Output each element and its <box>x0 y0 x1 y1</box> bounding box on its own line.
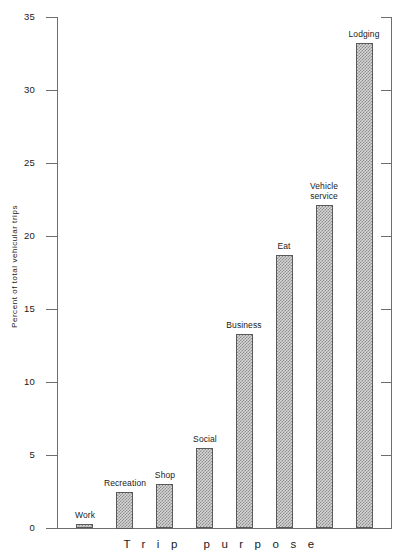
y-tick-left <box>46 163 57 164</box>
bar-rect <box>76 524 93 528</box>
bar-rect <box>196 448 213 528</box>
bar-social[interactable] <box>196 448 213 528</box>
bar-recreation[interactable] <box>116 492 133 529</box>
y-tick-right <box>381 90 392 91</box>
y-tick-label: 0 <box>30 523 35 533</box>
y-tick-right <box>381 382 392 383</box>
bar-label: Vehicle service <box>285 181 363 201</box>
bar-rect <box>156 484 173 528</box>
y-axis-title: Percent of total vehicular trips <box>10 167 19 367</box>
bar-rect <box>276 255 293 528</box>
bar-label: Eat <box>245 241 323 251</box>
y-tick-left <box>46 236 57 237</box>
y-tick-label: 10 <box>24 377 35 387</box>
y-tick-label: 5 <box>30 450 35 460</box>
y-tick-left <box>46 528 57 529</box>
bar-label: Shop <box>126 470 204 480</box>
bar-label: Social <box>166 434 244 444</box>
y-axis-right-line <box>391 17 392 529</box>
bar-business[interactable] <box>236 334 253 528</box>
bar-label: Work <box>46 510 124 520</box>
y-tick-label: 35 <box>24 12 35 22</box>
y-tick-label: 25 <box>24 158 35 168</box>
bar-work[interactable] <box>76 524 93 528</box>
y-tick-right <box>381 455 392 456</box>
y-tick-label: 15 <box>24 304 35 314</box>
bar-rect <box>236 334 253 528</box>
y-tick-label: 20 <box>24 231 35 241</box>
y-tick-left <box>46 309 57 310</box>
y-tick-left <box>46 17 57 18</box>
y-tick-right <box>381 528 392 529</box>
y-tick-label: 30 <box>24 85 35 95</box>
x-axis-baseline <box>57 528 392 529</box>
bar-lodging[interactable] <box>356 43 373 528</box>
y-tick-right <box>381 309 392 310</box>
bar-rect <box>356 43 373 528</box>
bar-rect <box>116 492 133 529</box>
y-axis-left-line <box>57 17 58 529</box>
y-tick-left <box>46 382 57 383</box>
y-tick-right <box>381 236 392 237</box>
bar-chart: 35302520151050 Percent of total vehicula… <box>0 0 418 559</box>
bar-label: Lodging <box>325 29 403 39</box>
y-tick-left <box>46 90 57 91</box>
bar-eat[interactable] <box>276 255 293 528</box>
bar-shop[interactable] <box>156 484 173 528</box>
y-tick-right <box>381 163 392 164</box>
y-tick-left <box>46 455 57 456</box>
bar-rect <box>316 205 333 528</box>
x-axis-title: Trip purpose <box>57 538 392 550</box>
bar-label: Business <box>205 320 283 330</box>
y-tick-right <box>381 17 392 18</box>
bar-vehicle-service[interactable] <box>316 205 333 528</box>
